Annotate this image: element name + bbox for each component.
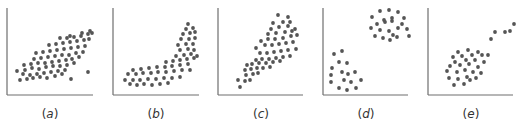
data-point	[370, 15, 374, 19]
data-point	[396, 10, 400, 14]
data-point	[407, 34, 411, 38]
data-point	[191, 26, 195, 30]
data-point	[359, 78, 363, 82]
data-point	[277, 25, 281, 29]
data-point	[260, 57, 264, 61]
panel-label-a: (a)	[20, 107, 80, 121]
data-point	[50, 60, 54, 64]
data-point	[243, 79, 247, 83]
data-point	[70, 57, 74, 61]
data-point	[266, 37, 270, 41]
data-point	[82, 38, 86, 42]
data-point	[265, 51, 269, 55]
data-point	[254, 46, 258, 50]
label-letter: a	[46, 107, 53, 121]
data-point	[147, 66, 151, 70]
data-point	[337, 60, 341, 64]
panel-label-b: (b)	[126, 107, 186, 121]
label-letter: d	[362, 107, 370, 121]
data-point	[349, 80, 353, 84]
data-point	[187, 37, 191, 41]
data-point	[193, 30, 197, 34]
data-point	[158, 82, 162, 86]
data-point	[189, 52, 193, 56]
data-point	[283, 30, 287, 34]
data-point	[18, 78, 22, 82]
data-point	[134, 72, 138, 76]
data-point	[191, 42, 195, 46]
data-point	[391, 33, 395, 37]
data-point	[139, 67, 143, 71]
data-point	[337, 86, 341, 90]
data-point	[45, 76, 49, 80]
data-point	[44, 65, 48, 69]
data-point	[55, 48, 59, 52]
data-point	[42, 71, 46, 75]
data-point	[178, 75, 182, 79]
data-point	[503, 30, 507, 34]
data-point	[76, 45, 80, 49]
data-point	[41, 50, 45, 54]
data-point	[188, 31, 192, 35]
scatter-plot-c	[218, 8, 303, 95]
data-point	[452, 83, 456, 87]
data-point	[135, 83, 139, 87]
data-point	[395, 35, 399, 39]
data-point	[273, 37, 277, 41]
data-point	[346, 72, 350, 76]
data-point	[155, 65, 159, 69]
data-point	[248, 78, 252, 82]
data-point	[468, 78, 472, 82]
data-point	[387, 29, 391, 33]
data-point	[286, 48, 290, 52]
data-point	[186, 62, 190, 66]
data-point	[259, 39, 263, 43]
data-point	[47, 43, 51, 47]
data-point	[467, 62, 471, 66]
data-point	[268, 65, 272, 69]
data-point	[126, 72, 130, 76]
data-point	[456, 77, 460, 81]
label-paren-close: )	[475, 107, 480, 121]
data-point	[482, 60, 486, 64]
data-point	[184, 27, 188, 31]
data-point	[463, 68, 467, 72]
data-point	[445, 69, 449, 73]
data-point	[261, 66, 265, 70]
data-point	[69, 77, 73, 81]
data-point	[83, 44, 87, 48]
data-point	[493, 30, 497, 34]
data-point	[184, 42, 188, 46]
data-point	[176, 43, 180, 47]
data-point	[270, 43, 274, 47]
data-point	[37, 67, 41, 71]
data-point	[30, 66, 34, 70]
data-point	[60, 72, 64, 76]
data-point	[61, 41, 65, 45]
data-point	[345, 88, 349, 92]
label-paren-close: )	[264, 107, 269, 121]
data-point	[142, 82, 146, 86]
data-point	[179, 37, 183, 41]
data-point	[150, 83, 154, 87]
data-point	[131, 68, 135, 72]
data-point	[263, 43, 267, 47]
data-point	[476, 50, 480, 54]
data-point	[378, 28, 382, 32]
data-point	[185, 57, 189, 61]
data-point	[276, 13, 280, 17]
data-point	[396, 26, 400, 30]
data-point	[279, 49, 283, 53]
data-point	[34, 51, 38, 55]
data-point	[149, 71, 153, 75]
data-point	[171, 59, 175, 63]
data-point	[390, 19, 394, 23]
data-point	[72, 61, 76, 65]
scatter-plot-a	[7, 8, 94, 95]
data-point	[294, 47, 298, 51]
data-point	[383, 20, 387, 24]
data-point	[293, 27, 297, 31]
data-point	[456, 50, 460, 54]
data-point	[22, 63, 26, 67]
data-point	[271, 21, 275, 25]
